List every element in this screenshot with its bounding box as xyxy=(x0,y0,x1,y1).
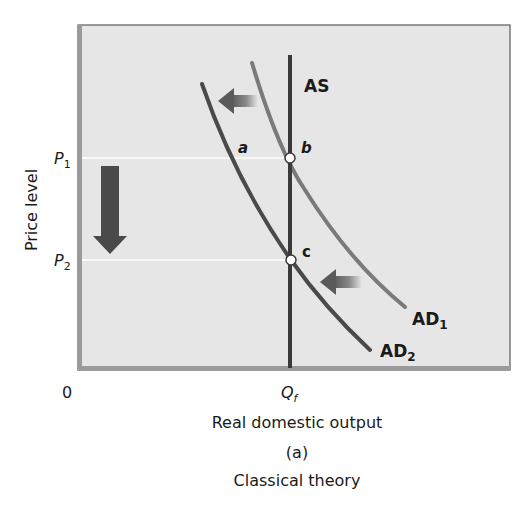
point-c-label: c xyxy=(302,243,311,261)
caption-title: Classical theory xyxy=(234,471,361,490)
point-a-label: a xyxy=(238,139,248,157)
chart-figure: AS AD1 AD2 a b c P1 P2 Price level 0 Qf … xyxy=(0,0,516,511)
qf-tick-label: Qf xyxy=(281,383,300,405)
as-label: AS xyxy=(304,76,329,96)
y-axis-title: Price level xyxy=(22,169,41,251)
point-c-marker xyxy=(286,255,296,265)
caption-letter: (a) xyxy=(286,443,308,462)
p1-tick-label: P1 xyxy=(54,149,71,171)
x-axis-title: Real domestic output xyxy=(212,413,383,432)
point-b-marker xyxy=(285,153,295,163)
p2-tick-label: P2 xyxy=(54,251,71,273)
panel-left-border xyxy=(78,25,82,370)
point-b-label: b xyxy=(301,139,312,157)
panel-bottom-border xyxy=(78,366,510,370)
origin-label: 0 xyxy=(62,383,72,402)
